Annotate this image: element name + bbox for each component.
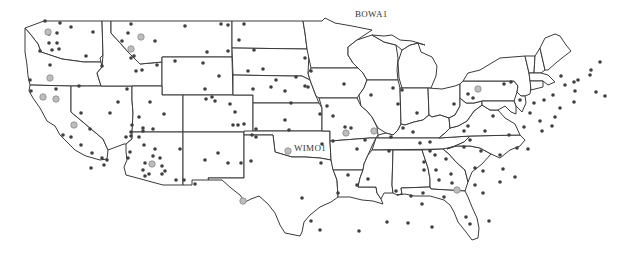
- site-marker: [108, 111, 112, 115]
- site-marker: [233, 110, 237, 114]
- site-marker: [182, 178, 186, 182]
- site-marker: [254, 127, 258, 131]
- site-marker: [411, 130, 415, 134]
- site-marker: [69, 135, 73, 139]
- site-marker: [401, 126, 405, 130]
- site-marker: [481, 169, 485, 173]
- site-marker: [79, 111, 83, 115]
- site-marker: [594, 90, 598, 94]
- site-marker: [387, 149, 391, 153]
- site-marker: [430, 225, 434, 229]
- site-marker: [126, 156, 130, 160]
- site-marker: [452, 102, 456, 106]
- site-marker: [473, 166, 477, 170]
- site-marker: [141, 168, 145, 172]
- site-marker: [559, 74, 563, 78]
- site-marker: [346, 173, 350, 177]
- site-marker: [163, 169, 167, 173]
- site-marker: [433, 153, 437, 157]
- site-marker: [124, 135, 128, 139]
- site-marker: [449, 172, 453, 176]
- site-marker: [420, 202, 424, 206]
- site-marker: [444, 157, 448, 161]
- site-marker: [153, 39, 157, 43]
- site-marker: [90, 151, 94, 155]
- site-marker: [38, 49, 42, 53]
- site-marker: [100, 64, 104, 68]
- site-marker: [125, 87, 129, 91]
- state-new-mexico: [183, 132, 244, 185]
- site-marker: [306, 85, 310, 89]
- site-marker: [513, 175, 517, 179]
- site-marker: [203, 158, 207, 162]
- site-marker: [422, 160, 426, 164]
- site-marker: [29, 89, 33, 93]
- site-marker-highlighted: [53, 96, 59, 102]
- site-marker: [183, 24, 187, 28]
- site-marker: [509, 80, 513, 84]
- site-marker: [162, 112, 166, 116]
- site-marker: [50, 48, 54, 52]
- state-florida: [397, 187, 479, 240]
- site-marker: [84, 54, 88, 58]
- site-marker: [294, 75, 298, 79]
- site-marker: [116, 100, 120, 104]
- site-marker: [120, 39, 124, 43]
- site-marker-highlighted: [285, 148, 291, 154]
- site-label-bowa1: BOWA1: [355, 9, 388, 19]
- site-marker: [129, 130, 133, 134]
- site-marker: [325, 104, 329, 108]
- site-marker: [309, 219, 313, 223]
- site-marker: [466, 124, 470, 128]
- site-marker: [289, 101, 293, 105]
- site-marker: [274, 78, 278, 82]
- site-marker: [471, 96, 475, 100]
- site-marker: [61, 133, 65, 137]
- site-marker: [242, 122, 246, 126]
- site-marker: [391, 86, 395, 90]
- state-connecticut: [530, 81, 543, 90]
- state-arizona: [124, 132, 183, 185]
- site-marker: [201, 61, 205, 65]
- site-marker: [102, 163, 106, 167]
- site-marker-highlighted: [40, 94, 46, 100]
- state-kansas: [253, 103, 322, 131]
- site-marker: [468, 138, 472, 142]
- site-marker: [137, 135, 141, 139]
- site-marker: [130, 123, 134, 127]
- site-marker: [550, 124, 554, 128]
- site-marker-highlighted: [71, 122, 77, 128]
- site-marker: [237, 38, 241, 42]
- site-marker: [572, 100, 576, 104]
- site-marker: [246, 69, 250, 73]
- site-marker-highlighted: [45, 29, 51, 35]
- state-maine: [540, 34, 571, 70]
- site-marker: [216, 151, 220, 155]
- site-marker: [143, 174, 147, 178]
- site-marker: [204, 97, 208, 101]
- site-marker: [137, 115, 141, 119]
- site-marker: [479, 149, 483, 153]
- site-marker: [303, 56, 307, 60]
- site-marker: [269, 85, 273, 89]
- site-label-wimo1: WIMO1: [294, 143, 326, 153]
- site-marker: [507, 133, 511, 137]
- site-marker: [394, 189, 398, 193]
- site-marker: [428, 140, 432, 144]
- site-marker: [228, 102, 232, 106]
- site-marker: [462, 129, 466, 133]
- site-marker: [518, 98, 522, 102]
- site-marker-highlighted: [138, 34, 144, 40]
- site-marker: [498, 180, 502, 184]
- site-marker: [126, 31, 130, 35]
- site-marker: [422, 168, 426, 172]
- site-marker: [300, 196, 304, 200]
- site-marker: [538, 119, 542, 123]
- site-marker: [522, 125, 526, 129]
- site-marker: [210, 95, 214, 99]
- site-marker: [158, 156, 162, 160]
- site-marker: [357, 229, 361, 233]
- state-michigan-lower: [398, 43, 437, 88]
- site-marker: [252, 48, 256, 52]
- us-site-map: [0, 0, 632, 256]
